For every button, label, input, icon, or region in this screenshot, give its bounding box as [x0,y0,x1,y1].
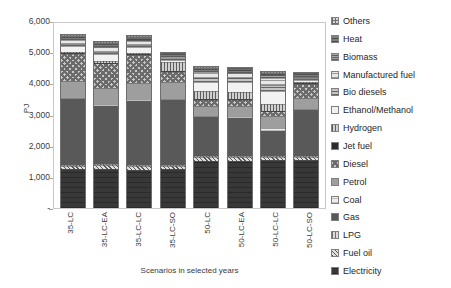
bar-segment-petrol[interactable] [127,83,151,100]
bar-segment-ethanol[interactable] [261,91,285,104]
bar-segment-gas[interactable] [294,110,318,156]
bar-segment-biomass[interactable] [127,40,151,42]
bar-segment-biodiesels[interactable] [61,44,85,46]
bar-segment-gas[interactable] [228,118,252,157]
stacked-bar[interactable] [60,34,86,208]
bar-segment-petrol[interactable] [228,106,252,116]
bar-segment-electricity[interactable] [94,169,118,208]
bar-segment-electricity[interactable] [261,160,285,208]
bar-segment-fueloil[interactable] [228,157,252,160]
bar-segment-biodiesels[interactable] [161,59,185,61]
bar-segment-biomass[interactable] [61,38,85,40]
bar-segment-biomass[interactable] [261,75,285,78]
legend-item-gas[interactable]: Gas [331,208,449,226]
bar-segment-gas[interactable] [261,131,285,156]
bar-segment-fueloil[interactable] [294,157,318,160]
bar-segment-heat[interactable] [261,74,285,76]
bar-segment-fueloil[interactable] [261,157,285,160]
bar-segment-petrol[interactable] [161,82,185,99]
bar-segment-biomass[interactable] [94,45,118,47]
bar-segment-coal[interactable] [127,99,151,100]
bar-segment-jetfuel[interactable] [228,99,252,100]
bar-segment-fueloil[interactable] [127,166,151,169]
bar-segment-heat[interactable] [161,54,185,55]
legend-item-jetfuel[interactable]: Jet fuel [331,137,449,155]
bar-segment-manufactured[interactable] [194,72,218,78]
bar-segment-hydrogen[interactable] [228,92,252,99]
bar-segment-electricity[interactable] [228,161,252,208]
stacked-bar[interactable] [126,35,152,208]
bar-segment-gas[interactable] [161,100,185,165]
legend-item-diesel[interactable]: Diesel [331,155,449,173]
bar-segment-electricity[interactable] [294,160,318,208]
bar-segment-hydrogen[interactable] [194,91,218,98]
bar-segment-others[interactable] [94,42,118,44]
bar-segment-ethanol[interactable] [228,82,252,91]
bar-segment-hydrogen[interactable] [261,104,285,111]
bar-segment-coal[interactable] [161,99,185,100]
bar-segment-diesel[interactable] [228,100,252,106]
bar-segment-biodiesels[interactable] [127,45,151,47]
bar-segment-ethanol[interactable] [61,46,85,52]
legend-item-lpg[interactable]: LPG [331,226,449,244]
bar-segment-lpg[interactable] [194,156,218,157]
bar-segment-jetfuel[interactable] [61,53,85,54]
bar-segment-biomass[interactable] [294,75,318,76]
bar-segment-biodiesels[interactable] [228,78,252,82]
legend-item-ethanol[interactable]: Ethanol/Methanol [331,101,449,119]
bar-segment-heat[interactable] [94,44,118,45]
bar-segment-manufactured[interactable] [127,41,151,44]
legend-item-hydrogen[interactable]: Hydrogen [331,119,449,137]
bar-segment-biodiesels[interactable] [94,52,118,54]
bar-segment-heat[interactable] [127,38,151,39]
bar-segment-coal[interactable] [61,98,85,99]
bar-segment-coal[interactable] [94,104,118,105]
legend-item-fueloil[interactable]: Fuel oil [331,244,449,262]
legend-item-manufactured[interactable]: Manufactured fuel [331,66,449,84]
bar-segment-lpg[interactable] [161,165,185,166]
bar-segment-diesel[interactable] [161,72,185,82]
bar-segment-hydrogen[interactable] [61,52,85,53]
bar-segment-diesel[interactable] [61,54,85,81]
bar-segment-ethanol[interactable] [194,82,218,92]
bar-segment-diesel[interactable] [294,84,318,98]
bar-segment-lpg[interactable] [294,156,318,157]
bar-segment-others[interactable] [127,36,151,38]
bar-segment-petrol[interactable] [194,106,218,116]
legend-item-petrol[interactable]: Petrol [331,173,449,191]
bar-segment-diesel[interactable] [194,100,218,106]
bar-segment-others[interactable] [261,72,285,74]
bar-segment-hydrogen[interactable] [94,61,118,62]
bar-segment-jetfuel[interactable] [127,54,151,55]
bar-segment-gas[interactable] [61,99,85,165]
bar-segment-coal[interactable] [294,109,318,110]
bar-segment-heat[interactable] [228,69,252,70]
stacked-bar[interactable] [93,41,119,208]
bar-segment-lpg[interactable] [61,165,85,166]
bar-segment-diesel[interactable] [127,55,151,83]
bar-segment-jetfuel[interactable] [94,63,118,64]
bar-segment-petrol[interactable] [61,81,85,98]
bar-segment-biodiesels[interactable] [294,78,318,80]
bar-segment-manufactured[interactable] [228,73,252,79]
bar-segment-fueloil[interactable] [61,166,85,169]
bar-segment-diesel[interactable] [261,111,285,115]
bar-segment-manufactured[interactable] [161,57,185,59]
bar-segment-hydrogen[interactable] [127,53,151,54]
legend-item-electricity[interactable]: Electricity [331,262,449,280]
bar-segment-manufactured[interactable] [94,47,118,51]
bar-segment-heat[interactable] [294,74,318,75]
bar-segment-hydrogen[interactable] [294,82,318,83]
bar-segment-electricity[interactable] [194,161,218,208]
stacked-bar[interactable] [227,67,253,208]
bar-segment-others[interactable] [228,68,252,70]
stacked-bar[interactable] [193,66,219,208]
bar-segment-jetfuel[interactable] [194,99,218,100]
bar-segment-lpg[interactable] [94,164,118,165]
legend-item-biomass[interactable]: Biomass [331,48,449,66]
bar-segment-jetfuel[interactable] [161,71,185,72]
bar-segment-heat[interactable] [61,37,85,38]
bar-segment-jetfuel[interactable] [294,83,318,84]
bar-segment-ethanol[interactable] [294,80,318,82]
bar-segment-coal[interactable] [228,116,252,117]
